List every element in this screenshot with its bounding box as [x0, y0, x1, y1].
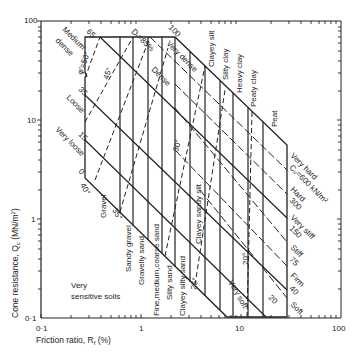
label-very-soft: Very soft	[226, 279, 250, 311]
y-axis-title: Cone resistance, Qc (MN/m2)	[10, 208, 21, 318]
label-peat: Peat	[270, 110, 279, 127]
y-tick-label: 10	[27, 116, 36, 125]
label-gravelly-sand: Gravelly sand	[137, 236, 146, 285]
x-tick-label: 1	[139, 324, 144, 333]
label-soft: Soft	[289, 300, 306, 317]
x-tick-label: 10	[235, 324, 244, 333]
label-fmc-sand: Fine,medium,coarse sand	[152, 224, 161, 316]
annotation-sensitive-2: sensitive soils	[71, 292, 120, 301]
soil-classification-chart: 0·1 1 10 100 100 10 1 0·1 Friction ratio…	[0, 0, 355, 355]
label-gravel: Gravel	[99, 194, 108, 218]
soil-labels: Gravel Sandy gravel Gravelly sand Fine,m…	[99, 30, 279, 316]
label-phi35: 35°	[110, 207, 124, 222]
y-tick-label: 100	[24, 16, 38, 25]
strength-lines-dashed	[150, 37, 287, 298]
y-tick-label: 1	[31, 215, 36, 224]
consistency-labels: Very hard Cᵤ=600 kN/m² Hard 300 Very sti…	[226, 151, 330, 317]
label-dense: Dense	[150, 65, 173, 88]
x-tick-label: 100	[332, 324, 346, 333]
label-silty-clay: Silty clay	[221, 48, 230, 80]
y-tick-label: 0·1	[25, 314, 37, 323]
label-peaty-clay: Peaty clay	[249, 70, 258, 107]
label-phi30: 30°	[171, 138, 183, 152]
label-clayey-silt: Clayey silt	[207, 30, 216, 67]
label-heavy-clay: Heavy clay	[235, 54, 244, 93]
label-clayey-silty-sand: Clayey silty sand	[178, 256, 187, 316]
label-clayey-sandy-silt: Clayey sandy silt	[194, 183, 203, 244]
x-tick-label: 0·1	[36, 324, 48, 333]
label-sandy-gravel: Sandy gravel	[124, 225, 133, 272]
label-phi50: φ'=50°	[75, 51, 91, 76]
label-phi45: 45°	[101, 66, 114, 80]
label-d35: 35	[77, 85, 90, 98]
x-axis-title: Friction ratio, Rf (%)	[36, 335, 111, 346]
label-d15: 15	[77, 130, 90, 143]
label-phi20: 20°	[241, 253, 250, 265]
label-silty-sand: Silty sand	[165, 265, 174, 300]
annotation-sensitive-1: Very	[71, 281, 87, 290]
label-cu20: 20	[267, 293, 280, 306]
label-d65: 65	[85, 27, 98, 40]
density-labels: 65 Dᵣ=85% 100 35 15 0 Medium dense Loose…	[54, 23, 200, 177]
